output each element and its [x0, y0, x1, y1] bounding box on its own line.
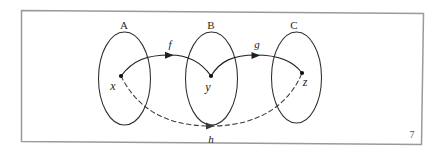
page-frame-border: [22, 11, 424, 145]
element-point-y: [209, 74, 213, 78]
map-label-g: g: [254, 38, 260, 50]
function-composition-diagram: A B C h f g x y z 7: [0, 0, 440, 157]
element-label-z: z: [302, 75, 308, 89]
map-arrowhead-h: [206, 122, 215, 129]
map-arrowhead-g: [252, 52, 261, 59]
set-ellipse-c: [272, 32, 322, 123]
element-point-x: [119, 74, 123, 78]
map-arrowhead-f: [165, 52, 174, 59]
map-arrow-g: [211, 55, 302, 76]
set-label-a: A: [120, 19, 128, 31]
map-label-f: f: [168, 38, 173, 50]
map-label-h: h: [208, 133, 214, 145]
figure-page: A B C h f g x y z 7: [0, 0, 440, 157]
element-label-x: x: [109, 79, 116, 93]
set-label-c: C: [290, 19, 297, 31]
set-ellipse-b: [186, 32, 238, 125]
element-label-y: y: [204, 80, 211, 94]
set-ellipse-a: [99, 32, 151, 125]
page-number: 7: [410, 129, 415, 140]
set-label-b: B: [207, 19, 214, 31]
